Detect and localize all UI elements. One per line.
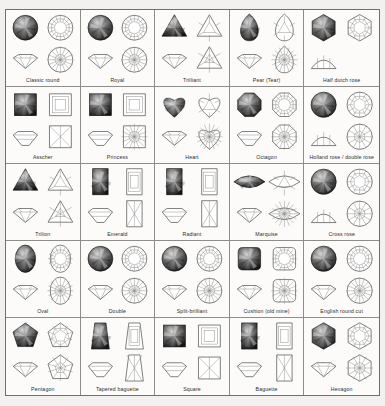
crown-view-diagram — [117, 166, 152, 198]
cut-cell[interactable]: Cushion (old mine) — [230, 241, 305, 318]
cut-cell[interactable]: Half dutch rose — [304, 10, 379, 87]
cut-diagram-group — [6, 164, 80, 229]
gem-photograph — [232, 89, 267, 121]
cut-label: Princess — [81, 152, 155, 163]
cut-cell[interactable]: Trilion — [6, 164, 81, 241]
pavilion-view-diagram — [342, 121, 377, 153]
profile-view-diagram — [157, 121, 192, 153]
profile-view-diagram — [8, 352, 43, 384]
profile-view-diagram — [232, 198, 267, 230]
gem-photograph — [232, 320, 267, 352]
cut-cell[interactable]: Classic round — [6, 10, 81, 87]
cut-cell[interactable]: Split-brilliant — [155, 241, 230, 318]
profile-view-diagram — [8, 275, 43, 307]
pavilion-view-diagram — [117, 121, 152, 153]
cut-cell[interactable]: Heart — [155, 87, 230, 164]
profile-view-diagram — [8, 121, 43, 153]
crown-view-diagram — [342, 166, 377, 198]
pavilion-view-diagram — [192, 121, 227, 153]
cut-diagram-group — [81, 10, 155, 75]
cut-diagram-group — [304, 164, 379, 229]
cut-cell[interactable]: Holland rose / double rose — [304, 87, 379, 164]
gem-photograph — [232, 166, 267, 198]
pavilion-view-diagram — [192, 44, 227, 76]
pavilion-view-diagram — [117, 275, 152, 307]
cut-cell[interactable]: Double — [81, 241, 156, 318]
profile-view-diagram — [83, 275, 118, 307]
cut-diagram-group — [81, 164, 155, 229]
cut-label: Pentagon — [6, 384, 80, 395]
cut-diagram-group — [230, 164, 304, 229]
pavilion-view-diagram — [192, 198, 227, 230]
cut-diagram-group — [155, 241, 229, 306]
cut-cell[interactable]: Asscher — [6, 87, 81, 164]
cut-label: Marquise — [230, 229, 304, 240]
cut-cell[interactable]: Tapered baguette — [81, 318, 156, 395]
cut-cell[interactable]: Marquise — [230, 164, 305, 241]
cut-cell[interactable]: English round cut — [304, 241, 379, 318]
profile-view-diagram — [83, 121, 118, 153]
crown-view-diagram — [267, 320, 302, 352]
gem-photograph — [306, 243, 341, 275]
gemstone-cuts-chart-page: Classic roundRoyalTrilliantPear (Tear)Ha… — [0, 0, 385, 406]
pavilion-view-diagram — [192, 275, 227, 307]
profile-view-diagram — [157, 44, 192, 76]
cut-cell[interactable]: Baguette — [230, 318, 305, 395]
cut-label: Double — [81, 306, 155, 317]
cut-label: Heart — [155, 152, 229, 163]
cut-cell[interactable]: Hexagon — [304, 318, 379, 395]
cut-cell[interactable]: Radiant — [155, 164, 230, 241]
crown-view-diagram — [267, 166, 302, 198]
cut-cell[interactable]: Oval — [6, 241, 81, 318]
profile-view-diagram — [8, 44, 43, 76]
cut-cell[interactable]: Princess — [81, 87, 156, 164]
pavilion-view-diagram — [43, 352, 78, 384]
crown-view-diagram — [43, 320, 78, 352]
cut-label: Oval — [6, 306, 80, 317]
cut-cell[interactable]: Royal — [81, 10, 156, 87]
crown-view-diagram — [342, 243, 377, 275]
cuts-grid: Classic roundRoyalTrilliantPear (Tear)Ha… — [5, 9, 380, 396]
gem-photograph — [306, 320, 341, 352]
pavilion-view-diagram — [267, 121, 302, 153]
cut-label: English round cut — [304, 306, 379, 317]
crown-view-diagram — [192, 243, 227, 275]
cut-diagram-group — [230, 87, 304, 152]
gem-photograph — [83, 320, 118, 352]
cut-diagram-group — [230, 241, 304, 306]
cut-diagram-group — [81, 87, 155, 152]
crown-view-diagram — [117, 243, 152, 275]
profile-view-diagram — [306, 352, 341, 384]
pavilion-view-diagram — [267, 44, 302, 76]
cut-diagram-group — [304, 10, 379, 75]
cut-cell[interactable]: Trilliant — [155, 10, 230, 87]
gem-photograph — [8, 166, 43, 198]
cut-label: Emerald — [81, 229, 155, 240]
gem-photograph — [8, 243, 43, 275]
cut-diagram-group — [304, 241, 379, 306]
empty-panel — [342, 44, 377, 76]
pavilion-view-diagram — [192, 352, 227, 384]
profile-view-diagram — [306, 121, 341, 153]
crown-view-diagram — [342, 12, 377, 44]
cut-cell[interactable]: Pentagon — [6, 318, 81, 395]
pavilion-view-diagram — [43, 44, 78, 76]
crown-view-diagram — [192, 320, 227, 352]
crown-view-diagram — [192, 89, 227, 121]
crown-view-diagram — [267, 12, 302, 44]
cut-cell[interactable]: Octagon — [230, 87, 305, 164]
cut-cell[interactable]: Emerald — [81, 164, 156, 241]
crown-view-diagram — [117, 89, 152, 121]
cut-diagram-group — [304, 318, 379, 384]
cut-cell[interactable]: Pear (Tear) — [230, 10, 305, 87]
gem-photograph — [157, 12, 192, 44]
cut-cell[interactable]: Cross rose — [304, 164, 379, 241]
pavilion-view-diagram — [267, 198, 302, 230]
crown-view-diagram — [192, 166, 227, 198]
gem-photograph — [306, 166, 341, 198]
profile-view-diagram — [83, 44, 118, 76]
cut-label: Split-brilliant — [155, 306, 229, 317]
cut-cell[interactable]: Square — [155, 318, 230, 395]
cut-diagram-group — [304, 87, 379, 152]
crown-view-diagram — [117, 12, 152, 44]
